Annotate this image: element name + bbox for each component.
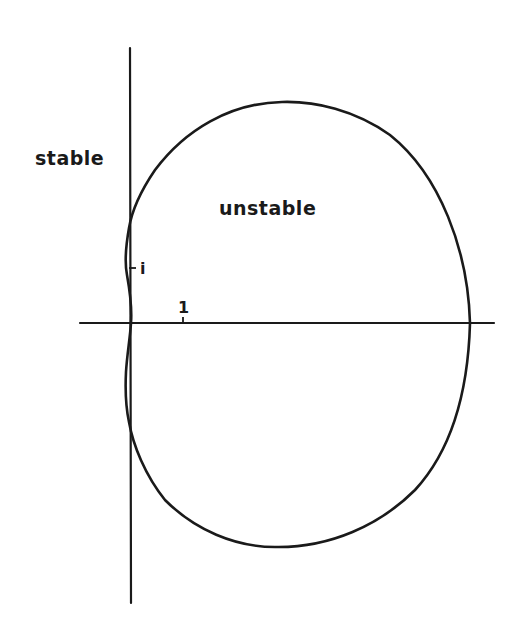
imag-unit-label: i <box>140 259 145 278</box>
stable-region-label: stable <box>35 147 104 169</box>
unstable-region-label: unstable <box>219 197 316 219</box>
stability-diagram: stable unstable 1 i <box>0 0 513 638</box>
stability-boundary-curve <box>126 102 470 547</box>
real-unit-label: 1 <box>178 298 189 317</box>
